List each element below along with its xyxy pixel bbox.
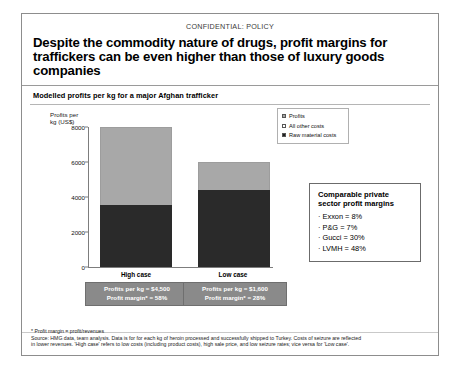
callout-low-profits: Profits per kg = $1,600 [184,285,286,293]
footnote-source-line1: Source: HMG data, team analysis. Data is… [31,335,429,342]
y-tickmark-8000 [85,126,88,127]
callout-high-margin: Profit margin* = 58% [86,294,188,302]
footnote-source-line2: in lower revenues. 'High case' refers to… [31,341,429,348]
legend-item-all-other-costs: All other costs [282,123,345,129]
callout-high-profits: Profits per kg = $4,500 [86,285,188,293]
page-title: Despite the commodity nature of drugs, p… [22,36,438,79]
comparable-item-pg: · P&G = 7% [318,223,413,234]
bar-segment-profits-low [198,162,270,190]
callout-low-margin: Profit margin* = 28% [184,294,286,302]
legend-swatch-raw-material-costs-icon [282,133,286,137]
legend-label-all-other-costs: All other costs [289,123,324,129]
comparable-item-exxon: · Exxon = 8% [318,212,413,223]
slide-frame: CONFIDENTIAL: POLICY Despite the commodi… [21,13,439,356]
category-label-low: Low case [185,271,281,278]
bar-low-case [198,162,270,267]
y-tickmark-2000 [85,231,88,232]
legend-label-raw-material-costs: Raw material costs [289,132,336,138]
y-tickmark-4000 [85,196,88,197]
bar-segment-raw-low [198,190,270,267]
legend-swatch-profits-icon [282,114,286,118]
classification-banner: CONFIDENTIAL: POLICY [22,14,438,36]
comparable-item-gucci: · Gucci = 30% [318,233,413,244]
plot-region: 8000 6000 4000 2000 0 [88,127,272,267]
y-tickmark-0 [85,266,88,267]
footnote-profit-margin-definition: * Profit margin = profit/revenues [31,328,429,335]
category-label-high: High case [88,271,184,278]
chart-subtitle: Modelled profits per kg for a major Afgh… [22,86,438,100]
comparable-item-lvmh: · LVMH = 48% [318,244,413,255]
y-tick-8000: 8000 [71,123,85,130]
chart-legend: Profits All other costs Raw material cos… [277,108,349,144]
x-axis-line [88,267,273,268]
legend-swatch-all-other-costs-icon [282,124,286,128]
callout-high-case: Profits per kg = $4,500 Profit margin* =… [85,282,189,306]
y-tick-2000: 2000 [71,228,85,235]
comparable-margins-box: Comparable private sector profit margins… [309,183,421,263]
footnote-block: * Profit margin = profit/revenues Source… [31,328,429,348]
legend-item-raw-material-costs: Raw material costs [282,132,345,138]
legend-label-profits: Profits [289,113,305,119]
legend-item-profits: Profits [282,113,345,119]
y-tick-6000: 6000 [71,158,85,165]
bar-high-case [100,127,172,267]
chart-area: Profits perkg (US$) 8000 6000 4000 2000 … [22,105,438,327]
callout-low-case: Profits per kg = $1,600 Profit margin* =… [183,282,287,306]
bar-segment-raw-high [100,205,172,267]
y-tick-4000: 4000 [71,193,85,200]
y-tickmark-6000 [85,161,88,162]
bar-segment-profits-high [100,127,172,205]
comparable-margins-heading: Comparable private sector profit margins [318,190,413,208]
